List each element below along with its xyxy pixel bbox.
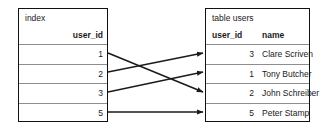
index-table-column-header-user-id: user_id xyxy=(19,27,103,44)
users-cell-name: Tony Butcher xyxy=(262,65,311,84)
users-cell-user-id: 3 xyxy=(206,45,254,64)
users-table-column-header-name: name xyxy=(262,27,310,44)
users-table-rows: 3 Clare Scriven 1 Tony Butcher 2 John Sc… xyxy=(206,44,309,121)
users-table-column-header-user-id: user_id xyxy=(212,27,254,44)
users-cell-name: Peter Stamp xyxy=(262,104,311,123)
table-row: 3 Clare Scriven xyxy=(206,44,309,64)
index-cell-user-id: 5 xyxy=(19,104,103,123)
arrow-index-2-to-users-row-1 xyxy=(108,53,203,72)
users-table: table users user_id name 3 Clare Scriven… xyxy=(205,8,310,122)
table-row: 3 xyxy=(19,83,107,103)
users-cell-name: Clare Scriven xyxy=(262,45,311,64)
users-cell-user-id: 5 xyxy=(206,104,254,123)
table-row: 1 Tony Butcher xyxy=(206,64,309,84)
users-cell-name: John Schreiber xyxy=(262,84,311,103)
table-row: 2 John Schreiber xyxy=(206,83,309,103)
index-table-mapping-diagram: index user_id 1 2 3 5 table users user_i… xyxy=(0,0,324,134)
index-table-caption: index xyxy=(19,9,107,27)
index-table-rows: 1 2 3 5 xyxy=(19,44,107,121)
index-cell-user-id: 1 xyxy=(19,45,103,64)
table-row: 1 xyxy=(19,44,107,64)
index-cell-user-id: 2 xyxy=(19,65,103,84)
table-row: 2 xyxy=(19,64,107,84)
index-table: index user_id 1 2 3 5 xyxy=(18,8,108,122)
table-row: 5 xyxy=(19,103,107,123)
table-row: 5 Peter Stamp xyxy=(206,103,309,123)
index-cell-user-id: 3 xyxy=(19,84,103,103)
users-table-caption: table users xyxy=(206,9,309,27)
arrow-index-1-to-users-row-3 xyxy=(108,53,203,92)
arrow-index-3-to-users-row-2 xyxy=(108,72,203,92)
users-cell-user-id: 1 xyxy=(206,65,254,84)
users-cell-user-id: 2 xyxy=(206,84,254,103)
